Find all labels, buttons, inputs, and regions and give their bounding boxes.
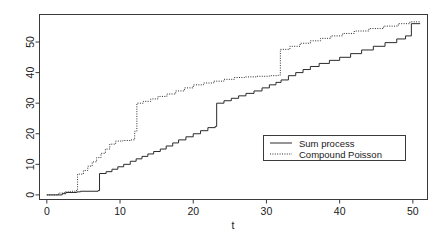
y-tick-label: 20 [25,128,37,140]
chart-background [0,0,448,240]
y-tick-label: 40 [25,67,37,79]
y-tick-label: 0 [25,192,37,198]
figure-container: 01020304050 01020304050 t Sum process Co… [0,0,448,240]
x-tick-label: 50 [407,205,419,217]
x-tick-label: 40 [334,205,346,217]
legend-label-compound-poisson: Compound Poisson [299,149,382,160]
y-tick-label: 10 [25,158,37,170]
x-tick-label: 0 [44,205,50,217]
y-tick-label: 50 [25,36,37,48]
legend-label-sum-process: Sum process [299,138,355,149]
x-axis-label: t [232,219,235,231]
y-tick-label: 30 [25,97,37,109]
x-tick-label: 30 [261,205,273,217]
step-process-chart: 01020304050 01020304050 t Sum process Co… [0,0,448,240]
chart-legend: Sum process Compound Poisson [264,136,406,161]
x-tick-label: 10 [114,205,126,217]
x-tick-label: 20 [187,205,199,217]
